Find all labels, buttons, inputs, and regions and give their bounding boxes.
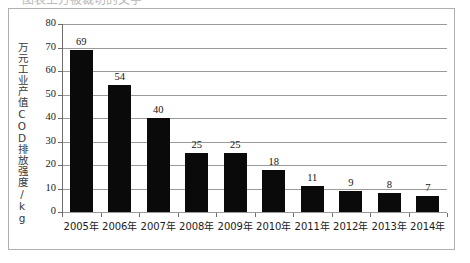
- y-tick-label: 30: [30, 135, 56, 146]
- y-tick-label: 20: [30, 158, 56, 169]
- y-tick-label: 40: [30, 111, 56, 122]
- plot-area: 69544025251811987: [62, 24, 447, 212]
- y-tick-mark: [58, 118, 63, 119]
- bar: [378, 193, 401, 212]
- bar-value-label: 25: [178, 139, 217, 150]
- bar-value-label: 40: [139, 104, 178, 115]
- y-tick-label: 60: [30, 64, 56, 75]
- bar-value-label: 54: [101, 71, 140, 82]
- y-tick-mark: [58, 165, 63, 166]
- gridline: [62, 24, 447, 25]
- x-tick-label: 2011年: [293, 218, 332, 233]
- y-tick-mark: [58, 24, 63, 25]
- x-tick-label: 2014年: [409, 218, 448, 233]
- x-tick-label: 2013年: [370, 218, 409, 233]
- bar-value-label: 69: [62, 36, 101, 47]
- bar-value-label: 8: [370, 179, 409, 190]
- y-tick-label: 80: [30, 17, 56, 28]
- x-tick-mark: [255, 213, 256, 217]
- bar: [185, 153, 208, 212]
- bar: [262, 170, 285, 212]
- y-tick-label: 0: [30, 205, 56, 216]
- x-tick-mark: [101, 213, 102, 217]
- y-tick-mark: [58, 95, 63, 96]
- x-tick-mark: [178, 213, 179, 217]
- x-tick-mark: [409, 213, 410, 217]
- gridline: [62, 48, 447, 49]
- bar-value-label: 18: [255, 156, 294, 167]
- y-axis-title: 万元工业产值COD排放强度/kg: [14, 42, 30, 212]
- x-tick-label: 2009年: [216, 218, 255, 233]
- cropped-caption-text: 图表上方被裁切的文字: [22, 0, 142, 7]
- y-tick-mark: [58, 48, 63, 49]
- x-tick-mark: [62, 213, 63, 217]
- bar-value-label: 25: [216, 139, 255, 150]
- y-tick-mark: [58, 189, 63, 190]
- x-tick-label: 2006年: [101, 218, 140, 233]
- bar-value-label: 9: [332, 177, 371, 188]
- bar: [301, 186, 324, 212]
- bar: [416, 196, 439, 212]
- x-tick-mark: [332, 213, 333, 217]
- y-tick-mark: [58, 142, 63, 143]
- x-tick-mark: [139, 213, 140, 217]
- y-tick-label: 70: [30, 41, 56, 52]
- x-tick-mark: [216, 213, 217, 217]
- x-tick-mark: [447, 213, 448, 217]
- y-tick-label: 10: [30, 182, 56, 193]
- x-tick-label: 2008年: [178, 218, 217, 233]
- chart-screenshot: 图表上方被裁切的文字 万元工业产值COD排放强度/kg 695440252518…: [0, 0, 470, 263]
- x-tick-label: 2007年: [139, 218, 178, 233]
- y-tick-label: 50: [30, 88, 56, 99]
- x-tick-mark: [370, 213, 371, 217]
- bar: [108, 85, 131, 212]
- bar: [147, 118, 170, 212]
- x-tick-label: 2012年: [332, 218, 371, 233]
- bar-value-label: 11: [293, 172, 332, 183]
- x-tick-label: 2005年: [62, 218, 101, 233]
- cropped-caption-strip: 图表上方被裁切的文字: [0, 0, 470, 8]
- x-tick-label: 2010年: [255, 218, 294, 233]
- bar: [224, 153, 247, 212]
- bar-value-label: 7: [409, 182, 448, 193]
- bar: [339, 191, 362, 212]
- y-tick-mark: [58, 71, 63, 72]
- bar: [70, 50, 93, 212]
- x-tick-mark: [293, 213, 294, 217]
